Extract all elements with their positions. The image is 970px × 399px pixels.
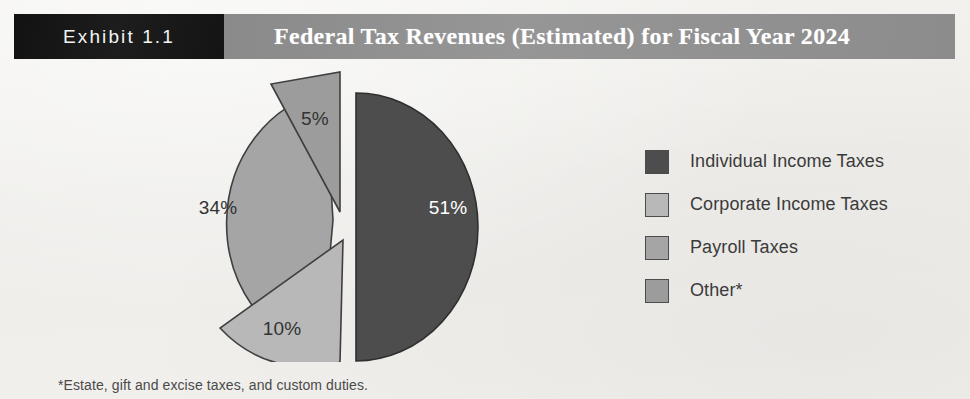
chart-legend: Individual Income Taxes Corporate Income… [645, 140, 955, 312]
legend-swatch-icon [645, 193, 669, 217]
legend-swatch-icon [645, 236, 669, 260]
exhibit-number-block: Exhibit 1.1 [14, 14, 224, 59]
legend-item-payroll-taxes[interactable]: Payroll Taxes [645, 226, 955, 269]
legend-item-label: Corporate Income Taxes [690, 194, 888, 215]
legend-item-other[interactable]: Other* [645, 269, 955, 312]
pie-chart: 51% 10% 34% 5% [78, 62, 618, 362]
legend-swatch-icon [645, 279, 669, 303]
legend-swatch-icon [645, 150, 669, 174]
legend-item-label: Other* [690, 280, 743, 301]
pie-label-payroll-taxes: 34% [199, 197, 238, 218]
legend-item-label: Individual Income Taxes [690, 151, 884, 172]
legend-item-corporate-income-taxes[interactable]: Corporate Income Taxes [645, 183, 955, 226]
pie-label-individual-income-taxes: 51% [429, 197, 468, 218]
pie-label-other: 5% [301, 108, 329, 129]
pie-slice-individual-income-taxes[interactable] [356, 93, 478, 361]
legend-item-label: Payroll Taxes [690, 237, 798, 258]
exhibit-title-block: Federal Tax Revenues (Estimated) for Fis… [224, 14, 955, 59]
page-title: Federal Tax Revenues (Estimated) for Fis… [274, 23, 850, 50]
legend-item-individual-income-taxes[interactable]: Individual Income Taxes [645, 140, 955, 183]
exhibit-number-label: Exhibit 1.1 [63, 26, 175, 48]
chart-footnote: *Estate, gift and excise taxes, and cust… [58, 377, 368, 393]
exhibit-header: Exhibit 1.1 Federal Tax Revenues (Estima… [14, 14, 955, 59]
pie-label-corporate-income-taxes: 10% [263, 318, 302, 339]
chart-area: 51% 10% 34% 5% Individual Income Taxes C… [0, 62, 970, 362]
